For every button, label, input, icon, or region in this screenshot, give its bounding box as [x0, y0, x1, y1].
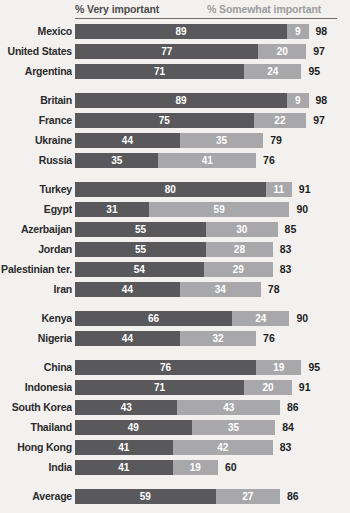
- bar-value-very-important: 41: [75, 440, 173, 455]
- bar-segment-very-important: 71: [75, 64, 244, 79]
- bar-value-very-important: 43: [75, 400, 177, 415]
- bar-value-somewhat-important: 24: [232, 311, 289, 326]
- chart-row: Iran443478: [0, 281, 350, 298]
- bar-value-somewhat-important: 28: [206, 242, 273, 257]
- bar-value-very-important: 71: [75, 64, 244, 79]
- bar-segment-somewhat-important: 34: [180, 282, 261, 297]
- chart-row: Azerbaijan553085: [0, 221, 350, 238]
- chart-row: China761995: [0, 359, 350, 376]
- chart-row: South Korea434386: [0, 399, 350, 416]
- row-label: France: [0, 112, 72, 129]
- bar-segment-somewhat-important: 35: [192, 420, 275, 435]
- row-label: Kenya: [0, 310, 72, 327]
- bar-value-very-important: 59: [75, 489, 216, 504]
- row-total: 60: [225, 459, 237, 476]
- chart-row: Thailand493584: [0, 419, 350, 436]
- stacked-bar-chart: % Very important % Somewhat important Me…: [0, 0, 350, 513]
- bar-value-very-important: 35: [75, 153, 158, 168]
- row-total: 86: [287, 399, 299, 416]
- row-total: 86: [287, 488, 299, 505]
- row-total: 97: [313, 43, 325, 60]
- chart-row: Average592786: [0, 488, 350, 505]
- bar-segment-very-important: 44: [75, 282, 180, 297]
- stacked-bar: 899: [75, 93, 309, 108]
- chart-row: Hong Kong414283: [0, 439, 350, 456]
- stacked-bar: 4343: [75, 400, 280, 415]
- row-label: Jordan: [0, 241, 72, 258]
- bar-value-very-important: 76: [75, 360, 256, 375]
- bar-value-somewhat-important: 20: [244, 380, 292, 395]
- bar-segment-somewhat-important: 22: [254, 113, 306, 128]
- chart-row: Indonesia712091: [0, 379, 350, 396]
- bar-segment-very-important: 89: [75, 93, 287, 108]
- row-label: Palestinian ter.: [0, 261, 72, 278]
- row-total: 79: [270, 132, 282, 149]
- row-label: Russia: [0, 152, 72, 169]
- bar-segment-very-important: 43: [75, 400, 177, 415]
- bar-segment-somewhat-important: 28: [206, 242, 273, 257]
- stacked-bar: 5429: [75, 262, 273, 277]
- bar-value-very-important: 41: [75, 460, 173, 475]
- bar-value-very-important: 55: [75, 242, 206, 257]
- legend-item-somewhat-important: % Somewhat important: [207, 3, 321, 15]
- bar-segment-somewhat-important: 20: [244, 380, 292, 395]
- bar-segment-very-important: 59: [75, 489, 216, 504]
- chart-row: Mexico89998: [0, 23, 350, 40]
- bar-value-somewhat-important: 29: [204, 262, 273, 277]
- bar-value-very-important: 44: [75, 133, 180, 148]
- row-total: 83: [280, 241, 292, 258]
- bar-segment-somewhat-important: 24: [232, 311, 289, 326]
- bar-segment-very-important: 76: [75, 360, 256, 375]
- bar-segment-somewhat-important: 19: [173, 460, 218, 475]
- stacked-bar: 4935: [75, 420, 275, 435]
- row-label: Azerbaijan: [0, 221, 72, 238]
- chart-row: United States772097: [0, 43, 350, 60]
- bar-value-very-important: 77: [75, 44, 258, 59]
- row-total: 98: [316, 92, 328, 109]
- bar-segment-very-important: 80: [75, 182, 266, 197]
- bar-segment-very-important: 77: [75, 44, 258, 59]
- bar-segment-somewhat-important: 11: [266, 182, 292, 197]
- row-total: 91: [299, 379, 311, 396]
- bar-value-very-important: 75: [75, 113, 254, 128]
- stacked-bar: 3541: [75, 153, 256, 168]
- chart-legend: % Very important % Somewhat important: [0, 3, 350, 19]
- stacked-bar: 4119: [75, 460, 218, 475]
- row-total: 83: [280, 439, 292, 456]
- bar-value-very-important: 66: [75, 311, 232, 326]
- bar-segment-very-important: 31: [75, 202, 149, 217]
- bar-value-somewhat-important: 41: [158, 153, 256, 168]
- bar-value-very-important: 31: [75, 202, 149, 217]
- bar-value-somewhat-important: 42: [173, 440, 273, 455]
- chart-row: Ukraine443579: [0, 132, 350, 149]
- bar-value-somewhat-important: 9: [287, 93, 308, 108]
- row-total: 95: [308, 63, 320, 80]
- chart-row: Palestinian ter.542983: [0, 261, 350, 278]
- bar-value-somewhat-important: 22: [254, 113, 306, 128]
- bar-segment-very-important: 89: [75, 24, 287, 39]
- row-total: 95: [308, 359, 320, 376]
- chart-row: Britain89998: [0, 92, 350, 109]
- row-total: 90: [296, 201, 308, 218]
- row-label: Britain: [0, 92, 72, 109]
- bar-segment-somewhat-important: 42: [173, 440, 273, 455]
- chart-row: Russia354176: [0, 152, 350, 169]
- chart-row: Turkey801191: [0, 181, 350, 198]
- bar-value-somewhat-important: 34: [180, 282, 261, 297]
- bar-segment-very-important: 75: [75, 113, 254, 128]
- legend-item-very-important: % Very important: [75, 3, 159, 15]
- bar-segment-somewhat-important: 27: [216, 489, 280, 504]
- bar-segment-very-important: 54: [75, 262, 204, 277]
- bar-value-somewhat-important: 35: [180, 133, 263, 148]
- bar-segment-somewhat-important: 19: [256, 360, 301, 375]
- row-label: South Korea: [0, 399, 72, 416]
- stacked-bar: 899: [75, 24, 309, 39]
- bar-segment-somewhat-important: 29: [204, 262, 273, 277]
- bar-segment-very-important: 35: [75, 153, 158, 168]
- bar-value-somewhat-important: 35: [192, 420, 275, 435]
- chart-row: Kenya662490: [0, 310, 350, 327]
- bar-segment-somewhat-important: 9: [287, 93, 308, 108]
- stacked-bar: 6624: [75, 311, 289, 326]
- row-total: 98: [316, 23, 328, 40]
- row-total: 83: [280, 261, 292, 278]
